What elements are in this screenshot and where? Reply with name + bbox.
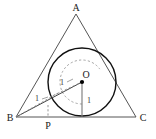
- center-point-o-dot: [80, 80, 84, 84]
- measure-label-radius-ab: 1: [60, 78, 64, 87]
- point-label-o: O: [82, 69, 89, 80]
- triangle-abc: [16, 14, 136, 117]
- vertex-label-a: A: [72, 2, 80, 13]
- vertex-label-c: C: [140, 112, 147, 123]
- measure-label-radius-b: 1: [35, 94, 39, 103]
- tick-radius-b: [42, 97, 48, 99]
- tick-radius-ab: [67, 79, 73, 82]
- point-label-p: P: [45, 120, 51, 131]
- vertex-label-b: B: [7, 112, 14, 123]
- measure-label-radius-base: 1: [87, 96, 91, 105]
- geometry-figure: A B C O P 1 1 1: [0, 0, 156, 139]
- triangle-side-ac: [76, 14, 136, 117]
- radius-o-to-ab-tangent: [50, 82, 82, 97]
- figure-canvas: A B C O P 1 1 1: [0, 0, 156, 139]
- dashed-arc: [60, 60, 100, 104]
